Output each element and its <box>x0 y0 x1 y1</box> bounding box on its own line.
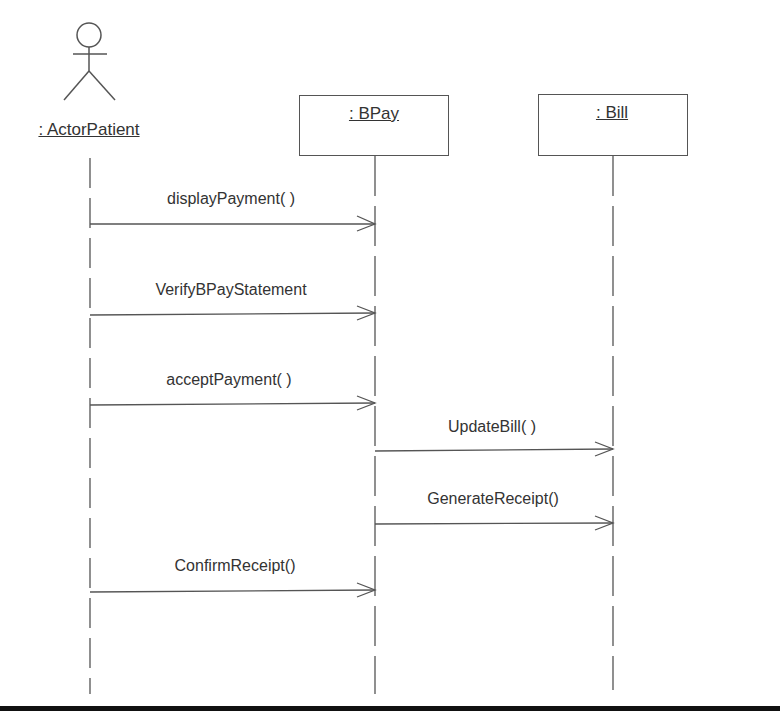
bottom-border-bar <box>0 706 780 711</box>
actor-stick-figure-icon <box>64 23 115 100</box>
message-arrow-6 <box>90 583 375 597</box>
object-name-bpay: : BPay <box>349 104 399 124</box>
message-label-6: ConfirmReceipt() <box>175 557 296 575</box>
message-arrow-5 <box>375 516 613 530</box>
message-arrow-1 <box>90 216 375 231</box>
sequence-diagram: : ActorPatient : BPay : Bill displayPaym… <box>0 0 780 725</box>
message-arrow-4 <box>375 442 613 456</box>
message-label-4: UpdateBill( ) <box>448 418 536 436</box>
actor-name: : ActorPatient <box>38 120 139 140</box>
message-label-1: displayPayment( ) <box>167 190 295 208</box>
message-arrow-3 <box>90 396 375 410</box>
message-arrow-2 <box>90 306 375 320</box>
message-label-5: GenerateReceipt() <box>427 490 559 508</box>
object-name-bill: : Bill <box>596 103 628 123</box>
message-label-3: acceptPayment( ) <box>166 371 291 389</box>
message-label-2: VerifyBPayStatement <box>155 281 306 299</box>
